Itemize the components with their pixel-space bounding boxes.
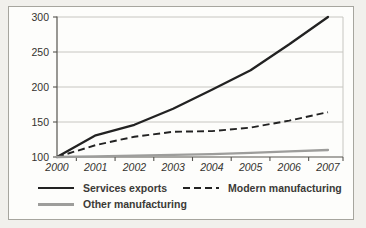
dashed-black-line-swatch-icon (183, 187, 219, 190)
solid-black-line-swatch-icon (38, 187, 74, 190)
legend-item-modern-manufacturing: Modern manufacturing (183, 182, 342, 194)
x-tick-label-2006: 2006 (277, 161, 302, 173)
legend-row-2: Other manufacturing (38, 196, 348, 212)
x-tick-label-2007: 2007 (315, 161, 341, 173)
legend-item-other-manufacturing: Other manufacturing (38, 198, 183, 210)
y-tick-label-200: 200 (31, 81, 49, 93)
legend-label-other-manufacturing: Other manufacturing (83, 198, 187, 210)
x-tick-label-2003: 2003 (160, 161, 185, 173)
legend-label-services-exports: Services exports (83, 182, 167, 194)
x-tick-label-2002: 2002 (122, 161, 147, 173)
chart-legend: Services exports Modern manufacturing Ot… (38, 180, 348, 212)
solid-gray-line-swatch-icon (38, 203, 74, 206)
x-tick-label-2005: 2005 (238, 161, 263, 173)
y-tick-label-300: 300 (31, 11, 49, 23)
legend-item-services-exports: Services exports (38, 182, 183, 194)
x-tick-label-2001: 2001 (83, 161, 107, 173)
legend-row-1: Services exports Modern manufacturing (38, 180, 348, 196)
legend-label-modern-manufacturing: Modern manufacturing (228, 182, 342, 194)
y-tick-label-150: 150 (31, 116, 49, 128)
x-tick-label-2004: 2004 (199, 161, 224, 173)
x-tick-label-2000: 2000 (44, 161, 69, 173)
y-tick-label-250: 250 (31, 46, 49, 58)
series-line-other-manufacturing (57, 150, 328, 157)
